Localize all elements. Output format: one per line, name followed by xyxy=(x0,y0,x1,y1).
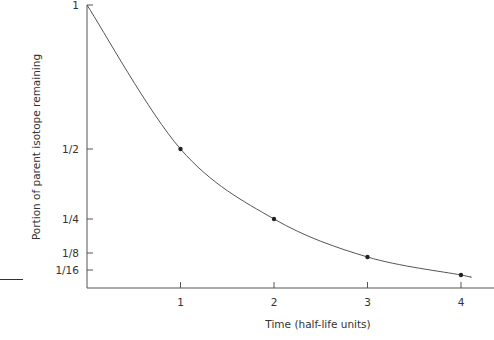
stray-line xyxy=(0,279,23,280)
y-tick-label: 1/16 xyxy=(55,264,79,276)
y-tick-label: 1/8 xyxy=(62,247,79,259)
x-tick-label: 3 xyxy=(364,296,371,308)
data-points xyxy=(178,147,463,277)
data-point xyxy=(178,147,182,151)
y-tick-label: 1/4 xyxy=(62,213,79,225)
axes xyxy=(87,5,494,288)
decay-curve xyxy=(87,5,471,277)
x-tick-label: 4 xyxy=(458,296,465,308)
data-point xyxy=(272,217,276,221)
y-tick-label: 1 xyxy=(72,0,79,11)
x-tick-label: 1 xyxy=(177,296,184,308)
data-point xyxy=(459,273,463,277)
x-axis-title: Time (half-life units) xyxy=(264,318,370,330)
x-tick-label: 2 xyxy=(271,296,278,308)
decay-chart: 11/21/41/81/16 1234 Time (half-life unit… xyxy=(0,0,494,340)
data-point xyxy=(365,255,369,259)
y-axis-title: Portion of parent isotope remaining xyxy=(30,54,42,240)
x-ticks: 1234 xyxy=(177,282,465,308)
y-tick-label: 1/2 xyxy=(62,143,79,155)
